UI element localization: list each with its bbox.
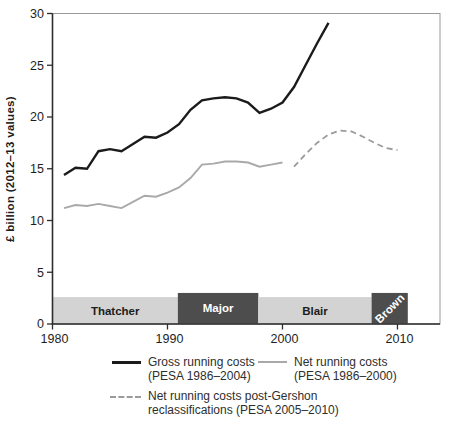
legend-label: Net running costs xyxy=(294,356,397,370)
pm-band-label-major: Major xyxy=(203,302,234,314)
y-tick-label: 10 xyxy=(30,214,44,228)
legend-text: Gross running costs (PESA 1986–2004) xyxy=(148,356,255,383)
legend-item-net-running-costs: Net running costs (PESA 1986–2000) xyxy=(258,356,397,383)
plot-border xyxy=(53,14,441,325)
y-tick-label: 0 xyxy=(37,317,44,331)
legend-sublabel: (PESA 1986–2000) xyxy=(294,370,397,384)
y-axis-title: £ billion (2012–13 values) xyxy=(4,96,16,242)
dashed-line-swatch-icon xyxy=(110,396,141,398)
y-tick-label: 5 xyxy=(37,266,44,280)
net-line-swatch-icon xyxy=(258,361,287,363)
y-tick-label: 25 xyxy=(30,59,44,73)
legend-label: Net running costs post-Gershon xyxy=(148,390,339,404)
running-costs-chart: ThatcherMajorBlairBrown05101520253019801… xyxy=(0,0,454,352)
running-costs-figure: ThatcherMajorBlairBrown05101520253019801… xyxy=(0,0,454,426)
legend-sublabel: (PESA 1986–2004) xyxy=(148,370,255,384)
legend-label: Gross running costs xyxy=(148,356,255,370)
x-tick-label: 2000 xyxy=(271,332,299,346)
y-tick-label: 30 xyxy=(30,7,44,21)
pm-band-label-thatcher: Thatcher xyxy=(91,305,140,317)
x-tick-label: 2010 xyxy=(386,332,414,346)
gross-line-swatch-icon xyxy=(112,361,141,364)
gross-running-costs-line xyxy=(64,23,329,175)
x-tick-label: 1980 xyxy=(41,332,69,346)
x-tick-label: 1990 xyxy=(156,332,184,346)
y-tick-label: 15 xyxy=(30,162,44,176)
net-running-costs-line xyxy=(64,162,283,209)
legend-text: Net running costs post-Gershon reclassif… xyxy=(148,390,339,417)
chart-plot-area: ThatcherMajorBlairBrown05101520253019801… xyxy=(30,7,440,346)
legend-text: Net running costs (PESA 1986–2000) xyxy=(294,356,397,383)
legend-item-gross-running-costs: Gross running costs (PESA 1986–2004) xyxy=(112,356,255,383)
pm-band-label-blair: Blair xyxy=(302,305,328,317)
legend-item-net-post-gershon: Net running costs post-Gershon reclassif… xyxy=(110,390,339,417)
legend-sublabel: reclassifications (PESA 2005–2010) xyxy=(148,404,339,418)
net-post-gershon-line xyxy=(294,131,398,167)
y-tick-label: 20 xyxy=(30,110,44,124)
